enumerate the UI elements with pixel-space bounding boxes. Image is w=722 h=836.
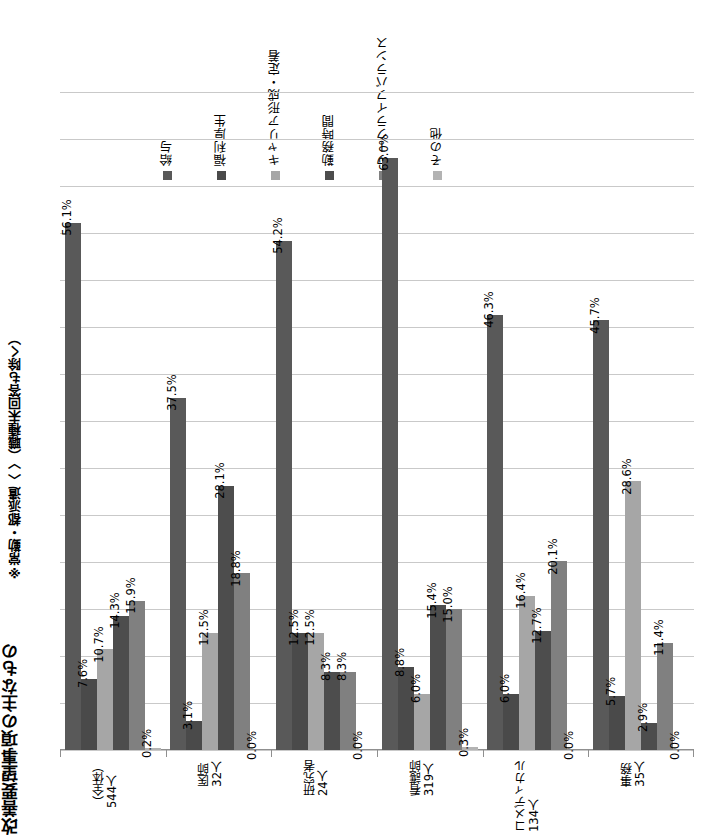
bar-value-label: 7.6% xyxy=(77,659,89,688)
bar-item[interactable]: 11.4% xyxy=(657,92,673,750)
bar-value-label: 45.7% xyxy=(590,297,602,334)
bar-group: 37.5%3.1%12.5%28.1%18.8%0.0% xyxy=(166,92,272,750)
bar[interactable] xyxy=(276,241,292,750)
bar-item[interactable]: 8.8% xyxy=(398,92,414,750)
category-tick xyxy=(693,750,694,757)
page-title: 改善要望事項の主なもの xyxy=(2,642,19,835)
bar-item[interactable]: 28.1% xyxy=(218,92,234,750)
bar-group: 63.0%8.8%6.0%15.4%15.0%0.3% xyxy=(377,92,483,750)
bar-item[interactable]: 45.7% xyxy=(593,92,609,750)
bar-value-label: 15.4% xyxy=(426,582,438,619)
category-label-count: 32人 xyxy=(212,760,226,787)
bar-item[interactable]: 0.2% xyxy=(145,92,161,750)
bar-item[interactable]: 16.4% xyxy=(519,92,535,750)
category-label: 事務35人 xyxy=(620,760,648,787)
bar-value-label: 2.9% xyxy=(638,703,650,732)
bar-item[interactable]: 6.0% xyxy=(414,92,430,750)
bar-value-label: 12.5% xyxy=(305,609,317,646)
bar-item[interactable]: 12.5% xyxy=(202,92,218,750)
bar-item[interactable]: 0.3% xyxy=(462,92,478,750)
bar-item[interactable]: 6.0% xyxy=(503,92,519,750)
bar-item[interactable]: 3.1% xyxy=(186,92,202,750)
bar-item[interactable]: 12.7% xyxy=(535,92,551,750)
bar-item[interactable]: 14.3% xyxy=(113,92,129,750)
bar-value-label: 10.7% xyxy=(93,626,105,663)
bar-item[interactable]: 28.6% xyxy=(625,92,641,750)
category-tick xyxy=(483,750,484,757)
bar-item[interactable]: 15.9% xyxy=(129,92,145,750)
bar-item[interactable]: 5.7% xyxy=(609,92,625,750)
category-tick xyxy=(377,750,378,757)
bar[interactable] xyxy=(535,631,551,750)
bar[interactable] xyxy=(81,679,97,750)
category-label-count: 35人 xyxy=(634,760,648,787)
bar-item[interactable]: 0.0% xyxy=(567,92,583,750)
bar-value-label: 63.0% xyxy=(378,135,390,172)
category-tick xyxy=(60,750,61,757)
category-label-name: 看護師 xyxy=(409,760,423,796)
title-note: ※常勤・都派遣〈 〉（職種未回答も除く） xyxy=(8,332,21,580)
bar-group-bars: 63.0%8.8%6.0%15.4%15.0%0.3% xyxy=(377,92,483,750)
bar-value-label: 37.5% xyxy=(167,374,179,411)
bar[interactable] xyxy=(308,633,324,751)
bar-value-label: 28.6% xyxy=(622,458,634,495)
category-label: 医師32人 xyxy=(197,760,225,787)
bar[interactable] xyxy=(430,605,446,750)
category-label-count: 319人 xyxy=(423,760,437,796)
bar-group-bars: 54.2%12.5%12.5%8.3%8.3%0.0% xyxy=(271,92,377,750)
plot-area: 56.1%7.6%10.7%14.3%15.9%0.2%37.5%3.1%12.… xyxy=(60,92,694,750)
bar-group-bars: 56.1%7.6%10.7%14.3%15.9%0.2% xyxy=(60,92,166,750)
category-label: 看護師319人 xyxy=(409,760,437,796)
bar[interactable] xyxy=(170,398,186,751)
bar[interactable] xyxy=(129,601,145,750)
bar-value-label: 56.1% xyxy=(61,199,73,236)
bar-value-label: 18.8% xyxy=(231,550,243,587)
bar[interactable] xyxy=(202,633,218,751)
category-axis: （全体）544人医師32人研究者24人看護師319人コメディカル134人事務35… xyxy=(60,750,694,836)
bar[interactable] xyxy=(113,616,129,750)
bar-group: 45.7%5.7%28.6%2.9%11.4%0.0% xyxy=(588,92,694,750)
bar-item[interactable]: 56.1% xyxy=(65,92,81,750)
bar[interactable] xyxy=(551,561,567,750)
bar-item[interactable]: 18.8% xyxy=(234,92,250,750)
bar-value-label: 8.8% xyxy=(394,648,406,677)
bar-value-label: 12.7% xyxy=(532,607,544,644)
bar-item[interactable]: 0.0% xyxy=(250,92,266,750)
bar-item[interactable]: 8.3% xyxy=(340,92,356,750)
bar[interactable] xyxy=(292,633,308,751)
bar[interactable] xyxy=(234,573,250,750)
bar-item[interactable]: 46.3% xyxy=(487,92,503,750)
bar-item[interactable]: 10.7% xyxy=(97,92,113,750)
bar-item[interactable]: 0.0% xyxy=(356,92,372,750)
bar-group: 54.2%12.5%12.5%8.3%8.3%0.0% xyxy=(271,92,377,750)
category-label-count: 544人 xyxy=(106,760,120,808)
bar-item[interactable]: 54.2% xyxy=(276,92,292,750)
bar-value-label: 12.5% xyxy=(289,609,301,646)
bar-value-label: 14.3% xyxy=(109,592,121,629)
bar-item[interactable]: 37.5% xyxy=(170,92,186,750)
bar-item[interactable]: 0.0% xyxy=(673,92,689,750)
category-label: （全体）544人 xyxy=(92,760,120,808)
bar-value-label: 8.3% xyxy=(337,652,349,681)
bar-group-bars: 46.3%6.0%16.4%12.7%20.1%0.0% xyxy=(483,92,589,750)
bar-item[interactable]: 15.0% xyxy=(446,92,462,750)
category-label-name: （全体） xyxy=(92,760,106,808)
bar-value-label: 46.3% xyxy=(484,292,496,329)
category-label-name: 事務 xyxy=(620,760,634,787)
category-tick xyxy=(588,750,589,757)
title-block: 改善要望事項の主なもの ※常勤・都派遣〈 〉（職種未回答も除く） xyxy=(0,0,46,836)
bar-group: 56.1%7.6%10.7%14.3%15.9%0.2% xyxy=(60,92,166,750)
bar[interactable] xyxy=(324,672,340,750)
bar[interactable] xyxy=(97,649,113,750)
bar-value-label: 6.0% xyxy=(500,674,512,703)
bar-value-label: 3.1% xyxy=(183,701,195,730)
bar-value-label: 16.4% xyxy=(516,573,528,610)
bar-item[interactable]: 15.4% xyxy=(430,92,446,750)
bar-value-label: 12.5% xyxy=(199,609,211,646)
bar-item[interactable]: 20.1% xyxy=(551,92,567,750)
bar-value-label: 28.1% xyxy=(215,463,227,500)
bar-item[interactable]: 12.5% xyxy=(292,92,308,750)
bar[interactable] xyxy=(218,486,234,750)
bar-value-label: 15.9% xyxy=(125,577,137,614)
bar-value-label: 6.0% xyxy=(410,674,422,703)
